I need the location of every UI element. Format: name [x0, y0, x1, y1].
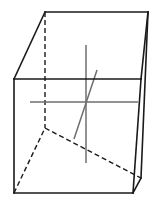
wireframe-cube-figure	[0, 0, 158, 208]
cube-diagram-canvas	[0, 0, 158, 208]
